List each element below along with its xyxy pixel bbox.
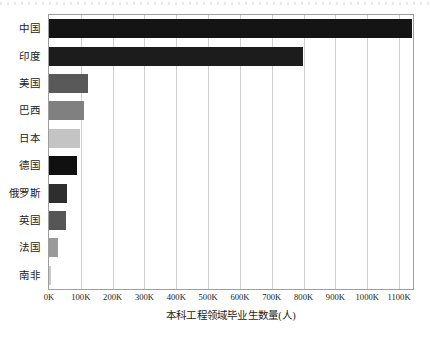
bar-chart: 中国印度美国巴西日本德国俄罗斯英国法国南非 0K100K200K300K400K…	[0, 0, 430, 338]
x-tick-1100K: 1100K	[388, 292, 411, 302]
x-axis-tick-labels: 0K100K200K300K400K500K600K700K800K900K10…	[48, 292, 414, 306]
x-tick-100K: 100K	[71, 292, 90, 302]
x-tick-300K: 300K	[135, 292, 154, 302]
x-axis-title: 本科工程领域毕业生数量(人)	[48, 307, 414, 322]
x-tick-200K: 200K	[103, 292, 122, 302]
bar-row	[49, 15, 413, 42]
x-tick-400K: 400K	[167, 292, 186, 302]
bar-row	[49, 262, 413, 289]
bar-美国[interactable]	[49, 74, 88, 93]
bar-印度[interactable]	[49, 47, 303, 66]
y-axis-label-英国: 英国	[19, 206, 40, 233]
bar-法国[interactable]	[49, 238, 58, 257]
x-tick-700K: 700K	[262, 292, 281, 302]
bar-row	[49, 97, 413, 124]
y-axis-label-法国: 法国	[19, 233, 40, 260]
bar-row	[49, 152, 413, 179]
bar-row	[49, 125, 413, 152]
y-axis-category-labels: 中国印度美国巴西日本德国俄罗斯英国法国南非	[0, 14, 44, 290]
x-tick-1000K: 1000K	[356, 292, 379, 302]
scan-artifact-line	[0, 2, 430, 5]
x-tick-900K: 900K	[326, 292, 345, 302]
x-tick-800K: 800K	[294, 292, 313, 302]
plot-area	[48, 14, 414, 290]
bar-俄罗斯[interactable]	[49, 184, 67, 203]
y-axis-label-巴西: 巴西	[19, 96, 40, 123]
y-axis-label-印度: 印度	[19, 41, 40, 68]
bar-日本[interactable]	[49, 129, 80, 148]
y-axis-label-中国: 中国	[19, 14, 40, 41]
bar-row	[49, 70, 413, 97]
bar-英国[interactable]	[49, 211, 66, 230]
x-tick-0K: 0K	[44, 292, 55, 302]
y-axis-label-南非: 南非	[19, 261, 40, 288]
y-axis-label-俄罗斯: 俄罗斯	[9, 178, 40, 205]
bar-row	[49, 179, 413, 206]
bar-row	[49, 234, 413, 261]
bar-巴西[interactable]	[49, 101, 84, 120]
bar-row	[49, 207, 413, 234]
bar-德国[interactable]	[49, 156, 77, 175]
x-tick-600K: 600K	[230, 292, 249, 302]
y-axis-label-美国: 美国	[19, 69, 40, 96]
bar-row	[49, 42, 413, 69]
y-axis-label-德国: 德国	[19, 151, 40, 178]
bars-layer	[49, 15, 413, 289]
bar-中国[interactable]	[49, 19, 412, 38]
x-tick-500K: 500K	[199, 292, 218, 302]
y-axis-label-日本: 日本	[19, 124, 40, 151]
bar-南非[interactable]	[49, 266, 51, 285]
